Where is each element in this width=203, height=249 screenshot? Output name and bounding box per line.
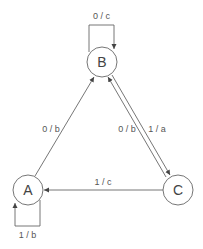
label-a-b: 0 / b [42,124,60,134]
label-b-c: 1 / a [148,124,166,134]
transition-a-a: 1 / b [15,200,40,240]
state-diagram: 0 / c 1 / b 0 / b 0 / b 1 / a 1 / c B A … [0,0,203,249]
state-a-label: A [23,182,33,198]
state-b: B [87,47,117,77]
state-c: C [163,175,193,205]
label-c-b: 0 / b [118,124,136,134]
label-a-a: 1 / b [19,230,37,240]
transition-c-a: 1 / c [44,177,163,190]
label-c-a: 1 / c [94,177,112,187]
state-b-label: B [97,54,106,70]
state-c-label: C [173,182,183,198]
label-b-b: 0 / c [93,11,111,21]
state-a: A [13,175,43,205]
transition-a-b: 0 / b [35,77,94,176]
transition-b-b: 0 / c [89,11,114,52]
